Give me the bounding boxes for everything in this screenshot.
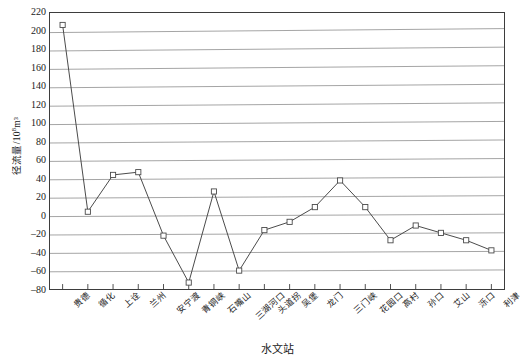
x-tick-label-text: 龙门: [325, 290, 345, 309]
x-axis-title: 水文站: [49, 340, 505, 356]
x-tick-label-text: 安宁渡: [175, 290, 202, 315]
y-tick-label: –40: [2, 248, 46, 258]
x-tick-label-text: 青铜峡: [200, 290, 227, 315]
y-tick-label: 120: [2, 100, 46, 110]
y-tick-label: 80: [2, 137, 46, 147]
x-tick-label-text: 吴堡: [299, 290, 319, 309]
x-axis-tick-labels: 贵德循化上诠兰州安宁渡青铜峡石嘴山三湖河口头道拐吴堡龙门三门峡花园口高村孙口艾山…: [49, 290, 505, 336]
y-tick-label: 60: [2, 155, 46, 165]
x-tick-label-text: 石嘴山: [226, 290, 253, 315]
x-tick-label-text: 循化: [97, 290, 117, 309]
x-tick-label: 安宁渡: [175, 290, 202, 315]
x-tick-label: 孙口: [426, 290, 446, 309]
x-tick-label: 艾山: [451, 290, 471, 309]
x-tick-label-text: 上诠: [122, 290, 142, 309]
y-tick-label: –60: [2, 266, 46, 276]
y-axis-tick-labels: 220200180160140120100806040200–20–40–60–…: [0, 0, 46, 364]
plot-area: [49, 12, 505, 290]
x-tick-label: 三门峡: [352, 290, 379, 315]
y-tick-label: 160: [2, 63, 46, 73]
y-tick-label: 100: [2, 118, 46, 128]
x-tick-label: 龙门: [325, 290, 345, 309]
data-series-layer: [50, 13, 504, 289]
y-tick-label: 0: [2, 211, 46, 221]
x-tick-label-text: 高村: [401, 290, 421, 309]
x-tick-label-text: 利津: [502, 290, 522, 309]
x-tick-label-text: 贵德: [71, 290, 91, 309]
y-tick-label: 20: [2, 192, 46, 202]
y-tick-label: 180: [2, 44, 46, 54]
y-tick-label: 200: [2, 26, 46, 36]
x-tick-label-text: 孙口: [426, 290, 446, 309]
y-tick-label: 140: [2, 81, 46, 91]
x-tick-label-text: 艾山: [451, 290, 471, 309]
y-tick-label: –80: [2, 285, 46, 295]
x-tick-label: 泺口: [477, 290, 497, 309]
x-tick-label: 石嘴山: [226, 290, 253, 315]
x-tick-label: 贵德: [71, 290, 91, 309]
y-tick-label: –20: [2, 229, 46, 239]
x-tick-label: 循化: [97, 290, 117, 309]
x-tick-label-text: 兰州: [147, 290, 167, 309]
x-tick-label: 利津: [502, 290, 522, 309]
y-tick-label: 40: [2, 174, 46, 184]
x-tick-label: 吴堡: [299, 290, 319, 309]
x-tick-label: 上诠: [122, 290, 142, 309]
x-tick-label: 青铜峡: [200, 290, 227, 315]
x-tick-label: 兰州: [147, 290, 167, 309]
x-tick-label: 高村: [401, 290, 421, 309]
y-tick-label: 220: [2, 7, 46, 17]
x-tick-label-text: 三门峡: [352, 290, 379, 315]
x-tick-label-text: 泺口: [477, 290, 497, 309]
